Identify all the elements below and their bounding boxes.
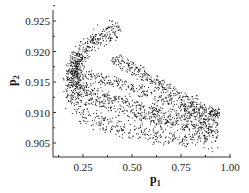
y-tick-label: 0.925: [25, 15, 50, 27]
y-tick-label: 0.920: [25, 46, 50, 58]
y-tick-label: 0.910: [25, 107, 50, 119]
x-tick-label: 1.00: [220, 161, 240, 173]
x-axis-label-subscript: 1: [157, 179, 161, 188]
scatter-chart: 0.250.500.751.00 0.9050.9100.9150.9200.9…: [0, 0, 249, 193]
x-tick-label: 0.75: [171, 161, 191, 173]
axes: 0.250.500.751.00 0.9050.9100.9150.9200.9…: [25, 6, 240, 173]
attractor-points: [63, 20, 220, 152]
y-tick-label: 0.915: [25, 76, 50, 88]
x-axis-label: p1: [150, 172, 161, 188]
y-axis-label-subscript: 2: [12, 75, 21, 79]
y-tick-label: 0.905: [25, 137, 50, 149]
x-tick-label: 0.50: [122, 161, 142, 173]
x-tick-label: 0.25: [73, 161, 93, 173]
y-ticks: 0.9050.9100.9150.9200.925: [25, 6, 56, 149]
y-axis-label: p2: [5, 75, 21, 86]
